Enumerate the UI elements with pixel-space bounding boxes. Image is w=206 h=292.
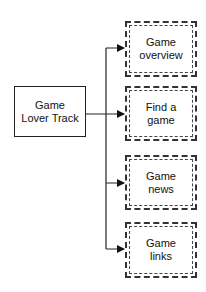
child-node-find-a-game: Find a game bbox=[125, 86, 197, 141]
child-node-label: Game links bbox=[146, 237, 176, 263]
child-node-label: Find a game bbox=[146, 101, 177, 127]
child-node-game-links: Game links bbox=[125, 222, 197, 278]
child-node-label: Game overview bbox=[139, 36, 182, 62]
child-node-label: Game news bbox=[146, 170, 176, 196]
child-node-game-overview: Game overview bbox=[125, 21, 197, 77]
root-node: Game Lover Track bbox=[14, 86, 86, 137]
root-node-label: Game Lover Track bbox=[21, 99, 78, 125]
child-node-game-news: Game news bbox=[125, 155, 197, 210]
